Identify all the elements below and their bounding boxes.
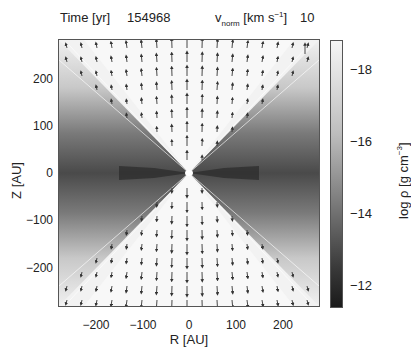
y-tick: 0 [46,166,53,180]
velocity-arrow [126,114,127,118]
velocity-arrow [157,83,158,90]
velocity-arrow [247,230,248,234]
velocity-arrow [126,100,127,104]
colorbar-tick: −16 [350,134,372,149]
x-tick: −200 [82,318,109,332]
time-value: 154968 [127,10,170,25]
vnorm-label: vnorm [km s−1] [215,10,287,28]
x-tick: 100 [226,318,246,332]
velocity-arrow [157,258,158,265]
velocity-arrow [247,114,248,118]
velocity-arrow [156,54,157,62]
velocity-arrow [247,244,248,248]
velocity-arrow [141,244,142,249]
velocity-arrow [157,272,158,279]
velocity-arrow [217,300,218,306]
velocity-arrow [232,258,233,264]
colorbar-tick: −12 [350,278,372,293]
y-tick: −200 [26,261,53,275]
x-tick: 0 [186,318,193,332]
velocity-arrow [156,286,157,294]
velocity-arrow [157,98,158,104]
velocity-arrow [247,100,248,104]
velocity-arrow [217,272,218,280]
time-label: Time [yr] [60,10,110,25]
velocity-arrow [157,244,158,251]
density-plot [58,39,320,307]
velocity-arrow [142,230,143,234]
velocity-arrow [141,99,142,104]
y-tick: 100 [33,119,53,133]
velocity-arrow [141,258,142,264]
y-tick: −100 [26,213,53,227]
velocity-arrow [232,114,233,119]
x-axis-label: R [AU] [170,332,208,347]
velocity-arrow [232,230,233,235]
density-map [59,40,319,306]
velocity-arrow [217,83,218,90]
velocity-arrow [217,258,218,265]
y-tick: 200 [33,72,53,86]
colorbar-tick: −14 [350,206,372,221]
velocity-arrow [126,244,127,248]
velocity-arrow [126,230,127,234]
velocity-arrow [156,40,157,48]
vnorm-value: 10 [300,10,314,25]
velocity-arrow [157,69,158,76]
colorbar-label: log ρ [g cm−3] [395,126,410,236]
velocity-arrow [141,84,142,90]
velocity-arrow [156,300,157,306]
y-axis-label: Z [AU] [9,151,24,211]
x-tick: 200 [273,318,293,332]
velocity-arrow [232,99,233,104]
colorbar [330,40,343,308]
velocity-arrow [217,54,218,62]
velocity-arrow [142,114,143,118]
colorbar-tick: −18 [350,62,372,77]
velocity-arrow [217,286,218,294]
velocity-arrow [232,244,233,250]
velocity-arrow [232,84,233,90]
x-tick: −100 [129,318,156,332]
velocity-arrow [217,40,218,48]
velocity-arrow [217,68,218,76]
